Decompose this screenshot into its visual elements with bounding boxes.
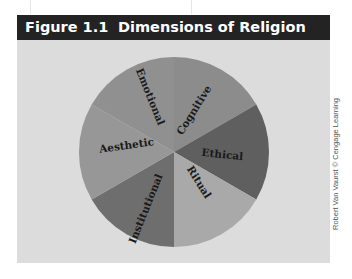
pie-chart: Cognitive Ethical Ritual Institutional A… <box>0 0 352 279</box>
image-credit: Robert Van Vaurst © Cengage Learning <box>331 98 340 230</box>
